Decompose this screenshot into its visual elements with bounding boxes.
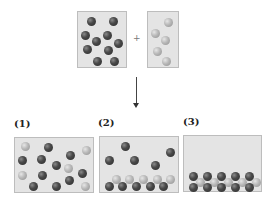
light-particle <box>21 142 30 151</box>
dark-particle <box>132 182 141 191</box>
dark-particle <box>66 151 75 160</box>
dark-particle <box>203 183 212 192</box>
dark-particle <box>65 176 74 185</box>
dark-particle <box>189 183 198 192</box>
dark-particle <box>52 182 61 191</box>
dark-particle <box>18 156 27 165</box>
reactant-box-light <box>147 11 179 68</box>
dark-particle <box>109 17 118 26</box>
dark-particle <box>159 182 168 191</box>
dark-particle <box>81 31 90 40</box>
option-label-3: (3) <box>183 116 199 127</box>
dark-particle <box>37 155 46 164</box>
dark-particle <box>93 57 102 66</box>
dark-particle <box>87 17 96 26</box>
dark-particle <box>110 57 119 66</box>
option-box-2 <box>99 136 179 193</box>
light-particle <box>82 146 91 155</box>
dark-particle <box>121 142 130 151</box>
dark-particle <box>83 45 92 54</box>
option-label-1: (1) <box>14 118 30 129</box>
dark-particle <box>38 171 47 180</box>
light-particle <box>153 47 162 56</box>
dark-particle <box>118 182 127 191</box>
dark-particle <box>130 156 139 165</box>
light-particle <box>166 175 175 184</box>
option-label-2: (2) <box>98 117 114 128</box>
dark-particle <box>29 182 38 191</box>
dark-particle <box>166 148 175 157</box>
dark-particle <box>92 37 101 46</box>
dark-particle <box>103 31 112 40</box>
light-particle <box>81 182 90 191</box>
reaction-arrow <box>136 77 137 104</box>
option-box-1 <box>14 137 94 193</box>
plus-sign: + <box>133 33 141 43</box>
dark-particle <box>105 182 114 191</box>
light-particle <box>162 57 171 66</box>
dark-particle <box>217 183 226 192</box>
dark-particle <box>114 39 123 48</box>
light-particle <box>64 164 73 173</box>
dark-particle <box>44 143 53 152</box>
light-particle <box>164 18 173 27</box>
dark-particle <box>146 182 155 191</box>
dark-particle <box>231 183 240 192</box>
dark-particle <box>105 156 114 165</box>
dark-particle <box>104 46 113 55</box>
dark-particle <box>151 161 160 170</box>
dark-particle <box>52 161 61 170</box>
dark-particle <box>78 169 87 178</box>
option-box-3 <box>183 135 262 192</box>
light-particle <box>18 171 27 180</box>
light-particle <box>151 29 160 38</box>
dark-particle <box>245 183 254 192</box>
light-particle <box>161 36 170 45</box>
reactant-box-dark <box>77 11 127 68</box>
arrow-head-icon <box>133 103 139 108</box>
